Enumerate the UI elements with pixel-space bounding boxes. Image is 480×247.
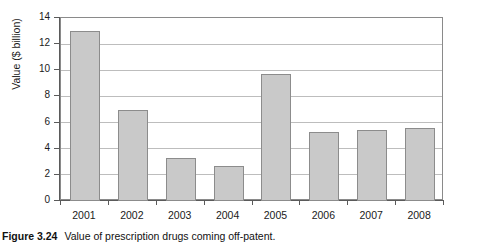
gridline [61, 96, 442, 97]
x-axis-tick [395, 200, 396, 205]
y-axis-tick [54, 43, 60, 44]
figure-caption: Figure 3.24Value of prescription drugs c… [2, 230, 472, 243]
y-axis-tick [54, 95, 60, 96]
y-axis-tick [54, 122, 60, 123]
plot-area [60, 17, 443, 200]
x-axis-tick [443, 200, 444, 205]
figure-caption-label: Figure 3.24 [2, 230, 57, 242]
bar-2006 [309, 132, 339, 201]
y-axis-tick-label: 6 [0, 117, 50, 127]
x-axis-tick-label: 2004 [204, 209, 252, 221]
x-axis-tick [108, 200, 109, 205]
x-axis-tick [299, 200, 300, 205]
y-axis-tick [54, 148, 60, 149]
y-axis-tick-label: 2 [0, 169, 50, 179]
x-axis-tick-label: 2006 [299, 209, 347, 221]
bar-2002 [118, 110, 148, 201]
bar-2003 [166, 158, 196, 201]
y-axis-tick [54, 69, 60, 70]
x-axis-tick-label: 2005 [252, 209, 300, 221]
y-axis-tick-label: 10 [0, 64, 50, 74]
bar-2008 [405, 128, 435, 201]
figure-container: Value ($ billion) 0246810121420012002200… [0, 0, 480, 247]
caption-divider [0, 224, 480, 225]
bar-2001 [70, 31, 100, 201]
y-axis-tick [54, 17, 60, 18]
bar-2005 [261, 74, 291, 201]
x-axis-tick [252, 200, 253, 205]
x-axis-tick-label: 2001 [60, 209, 108, 221]
figure-caption-text: Value of prescription drugs coming off-p… [64, 230, 275, 242]
gridline [61, 44, 442, 45]
x-axis-tick-label: 2003 [156, 209, 204, 221]
bar-2007 [357, 130, 387, 201]
y-axis-tick-label: 12 [0, 38, 50, 48]
x-axis-tick [156, 200, 157, 205]
x-axis-tick-label: 2008 [395, 209, 443, 221]
y-axis-tick [54, 174, 60, 175]
x-axis-tick [347, 200, 348, 205]
y-axis-tick-label: 8 [0, 90, 50, 100]
x-axis-tick [60, 200, 61, 205]
x-axis-tick-label: 2002 [108, 209, 156, 221]
x-axis-tick-label: 2007 [347, 209, 395, 221]
gridline [61, 70, 442, 71]
x-axis-tick [204, 200, 205, 205]
y-axis-tick-label: 14 [0, 12, 50, 22]
y-axis-tick-label: 0 [0, 195, 50, 205]
y-axis-tick-label: 4 [0, 143, 50, 153]
bar-2004 [214, 166, 244, 201]
